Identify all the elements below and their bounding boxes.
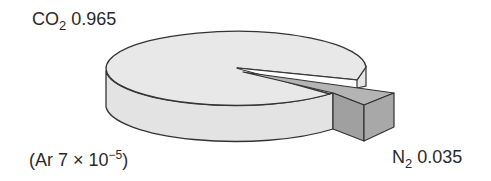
- label-ar: (Ar 7 × 10−5): [29, 150, 128, 170]
- pie-slice-co2: [106, 31, 366, 105]
- label-co2-formula: CO: [32, 9, 59, 29]
- label-ar-close: ): [122, 150, 128, 170]
- label-ar-exponent: −5: [109, 148, 123, 162]
- label-ar-text: (Ar 7 × 10: [29, 150, 109, 170]
- label-co2-value: 0.965: [66, 9, 116, 29]
- label-n2-formula: N: [392, 147, 405, 167]
- label-n2-value: 0.035: [412, 147, 462, 167]
- label-co2: CO2 0.965: [32, 9, 116, 29]
- label-n2: N2 0.035: [392, 147, 462, 167]
